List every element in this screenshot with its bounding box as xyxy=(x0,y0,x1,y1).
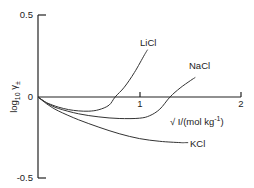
y-axis-label: log10 γ± xyxy=(8,81,21,113)
series-line-licl xyxy=(38,50,148,112)
y-axis-label-sub: 10 xyxy=(14,92,21,100)
y-axis-label-pm: ± xyxy=(14,81,21,85)
x-axis-label-close: ) xyxy=(221,116,224,127)
x-axis-label: √ I/(mol kg-1) xyxy=(170,115,224,127)
y-tick-label-top: 0.5 xyxy=(20,9,33,20)
series-label-nacl: NaCl xyxy=(189,60,210,71)
series-line-kcl xyxy=(38,97,185,143)
y-tick-label-bottom: -0.5 xyxy=(17,172,33,183)
y-axis-label-log: log xyxy=(8,100,19,113)
y-tick-label-zero: 0 xyxy=(28,91,33,102)
activity-coefficient-chart: 0.5 0 -0.5 1 2 √ I/(mol kg-1) log10 γ± L… xyxy=(0,0,254,188)
x-tick-label-2: 2 xyxy=(238,98,243,109)
curves-group xyxy=(38,50,195,143)
series-label-kcl: KCl xyxy=(190,138,205,149)
x-axis-label-base: I/(mol kg xyxy=(175,116,214,127)
series-label-licl: LiCl xyxy=(140,37,156,48)
x-tick-label-1: 1 xyxy=(137,98,142,109)
